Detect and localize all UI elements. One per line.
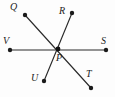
point-label-t: T — [86, 69, 92, 79]
point-label-u: U — [31, 73, 38, 83]
point-label-q: Q — [10, 2, 17, 12]
point-dot-u — [42, 79, 46, 83]
point-dot-r — [70, 11, 74, 15]
point-label-r: R — [59, 6, 65, 16]
point-dot-s — [104, 48, 108, 52]
point-label-s: S — [101, 36, 106, 46]
point-dot-q — [23, 13, 27, 17]
point-dot-p — [56, 47, 61, 52]
point-label-v: V — [3, 36, 9, 46]
geometry-figure: Q R V S P U T — [0, 0, 115, 97]
point-dot-v — [8, 48, 12, 52]
point-label-p: P — [56, 53, 62, 63]
point-dot-t — [89, 86, 93, 90]
figure-canvas — [0, 0, 115, 97]
